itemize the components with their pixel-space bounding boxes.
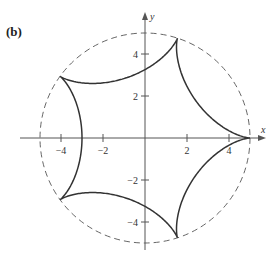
y-tick-label: 2	[133, 91, 138, 102]
y-tick-label: 4	[133, 49, 138, 60]
x-tick-label: −2	[98, 145, 109, 156]
x-axis-label: x	[260, 124, 266, 135]
x-axis-arrow-icon	[258, 135, 266, 141]
x-tick-label: −4	[56, 145, 67, 156]
axis-labels: −4−22442−2−4xy	[56, 11, 266, 228]
y-axis-arrow-icon	[142, 12, 148, 20]
x-tick-label: 4	[227, 145, 232, 156]
hypocycloid-figure: (b) −4−22442−2−4xy	[0, 0, 267, 253]
y-axis-label: y	[149, 11, 155, 22]
y-tick-label: −4	[127, 217, 138, 228]
panel-label: (b)	[6, 24, 22, 40]
x-tick-label: 2	[185, 145, 190, 156]
plot-area: −4−22442−2−4xy	[0, 0, 267, 253]
y-tick-label: −2	[127, 175, 138, 186]
